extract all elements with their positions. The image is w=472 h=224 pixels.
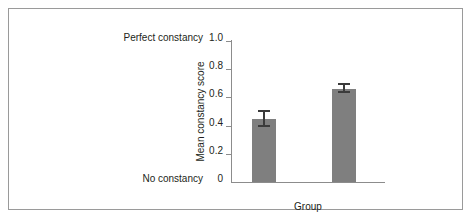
y-tick-label: 0.2 [209,146,223,156]
y-tick-label: 0.4 [209,118,223,128]
x-axis-title: Group [231,202,385,212]
x-axis-line [231,182,385,183]
bar-nonartists[interactable] [332,89,356,182]
y-tick-mark [226,41,231,42]
error-bar-cap-upper-artists [258,110,270,112]
bar-artists[interactable] [252,119,276,182]
y-tick-label: 0 [217,174,223,184]
plot-area: 1.0 0.8 0.6 0.4 0.2 0 Perfect con [231,41,384,182]
error-bar-cap-upper-nonartists [338,83,350,85]
y-tick-label: 1.0 [209,33,223,43]
figure-frame: Mean constancy score 1.0 0.8 0.6 0.4 0 [8,8,463,210]
axis-anchor-perfect-constancy: Perfect constancy [124,33,203,43]
axis-anchor-no-constancy: No constancy [142,174,203,184]
y-tick-mark [226,69,231,70]
y-axis-title: Mean constancy score [195,41,207,182]
y-tick-label: 0.8 [209,61,223,71]
error-bar-cap-lower-artists [258,125,270,127]
y-tick-label: 0.6 [209,89,223,99]
error-bar-cap-lower-nonartists [338,91,350,93]
y-tick-mark [226,126,231,127]
figure-root: Mean constancy score 1.0 0.8 0.6 0.4 0 [0,0,472,224]
y-tick-mark [226,97,231,98]
y-tick-mark [226,154,231,155]
